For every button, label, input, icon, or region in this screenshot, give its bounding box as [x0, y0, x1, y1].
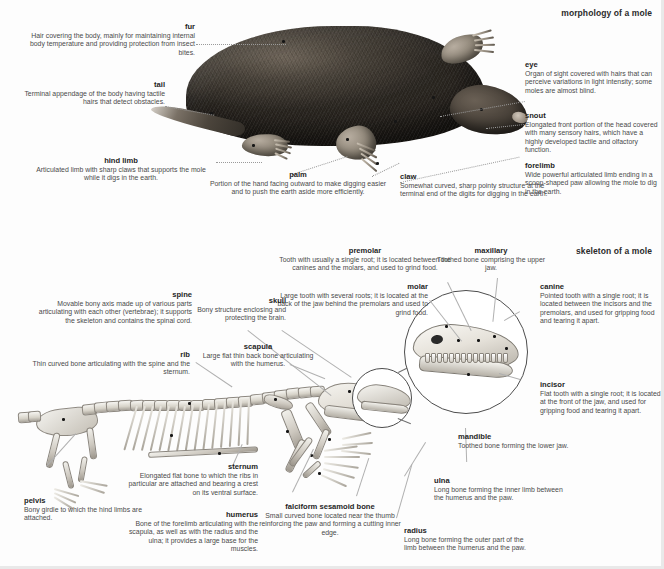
tail-vertebra-shape — [28, 411, 42, 423]
anchor-dot-snout — [480, 108, 483, 111]
callout-hind-limb: hind limb Articulated limb with sharp cl… — [28, 156, 214, 183]
callout-ulna: ulna Long bone forming the inner limb be… — [434, 476, 570, 503]
callout-eye-desc: Organ of sight covered with hairs that c… — [525, 70, 657, 95]
callout-mandible: mandible Toothed bone forming the lower … — [458, 432, 570, 450]
anchor-dot-scapula — [274, 398, 277, 401]
front-digit-shape — [324, 462, 359, 469]
anchor-dot-humerus — [286, 430, 289, 433]
callout-tail-term: tail — [10, 80, 165, 90]
callout-falciform-sesamoid-bone-term: falciform sesamoid bone — [256, 502, 404, 512]
callout-sternum: sternum Elongated flat bone to which the… — [128, 462, 258, 497]
anchor-dot-claw — [376, 162, 379, 165]
callout-scapula-term: scapula — [196, 342, 320, 352]
front-digit-shape — [321, 474, 347, 487]
skull-reference-circle — [352, 368, 412, 428]
callout-humerus-term: humerus — [124, 510, 258, 520]
callout-canine-term: canine — [540, 282, 662, 292]
hind-femur-shape — [45, 432, 61, 469]
callout-falciform-sesamoid-bone-desc: Small curved bone located near the thumb… — [256, 512, 404, 537]
anchor-dot-tail — [210, 112, 213, 115]
callout-sternum-term: sternum — [128, 462, 258, 472]
callout-snout: snout Elongated front portion of the hea… — [525, 111, 659, 155]
callout-fur-desc: Hair covering the body, mainly for maint… — [20, 32, 195, 57]
anchor-dot-skull — [348, 390, 351, 393]
callout-radius-term: radius — [404, 526, 538, 536]
callout-tail: tail Terminal appendage of the body havi… — [10, 80, 165, 107]
callout-mandible-desc: Toothed bone forming the lower jaw. — [458, 442, 570, 450]
callout-radius: radius Long bone forming the outer part … — [404, 526, 538, 553]
front-digit-shape — [324, 456, 360, 458]
callout-molar: molar Large tooth with several roots; it… — [268, 282, 428, 317]
callout-spine-desc: Movable bony axis made up of various par… — [30, 300, 192, 325]
anchor-dot-incisor — [505, 347, 508, 350]
anchor-dot-sternum — [218, 452, 221, 455]
callout-forelimb: forelimb Wide powerful articulated limb … — [525, 161, 659, 196]
anchor-dot-molar — [457, 339, 460, 342]
callout-radius-desc: Long bone forming the outer part of the … — [404, 536, 538, 553]
anchor-dot-rib — [170, 434, 173, 437]
callout-incisor-desc: Flat tooth with a single root; it is loc… — [540, 390, 662, 415]
callout-skull-desc: Bony structure enclosing and protecting … — [180, 306, 286, 323]
callout-maxillary-term: maxillary — [434, 246, 548, 256]
front-digit-far-shape — [342, 432, 372, 440]
callout-premolar-term: premolar — [278, 246, 452, 256]
callout-fur: fur Hair covering the body, mainly for m… — [20, 22, 195, 57]
anchor-dot-mandible — [467, 373, 470, 376]
callout-scapula: scapula Large flat thin back bone articu… — [196, 342, 320, 369]
callout-hind-limb-term: hind limb — [28, 156, 214, 166]
hind-femur2-shape — [86, 427, 97, 460]
callout-scapula-desc: Large flat thin back bone articulating w… — [196, 352, 320, 369]
callout-spine-term: spine — [30, 290, 192, 300]
anchor-dot-pelvis — [62, 418, 65, 421]
callout-canine-desc: Pointed tooth with a single root; it is … — [540, 292, 662, 326]
callout-ulna-desc: Long bone forming the inner limb between… — [434, 486, 570, 503]
callout-premolar: premolar Tooth with usually a single roo… — [278, 246, 452, 273]
anchor-dot-ulna — [328, 438, 331, 441]
anchor-dot-canine — [493, 335, 496, 338]
callout-canine: canine Pointed tooth with a single root;… — [540, 282, 662, 326]
anchor-dot-palm — [346, 138, 349, 141]
callout-skull: skull Bony structure enclosing and prote… — [180, 296, 286, 323]
callout-ulna-term: ulna — [434, 476, 570, 486]
anchor-dot-falciform — [318, 472, 321, 475]
front-digit-far-shape — [341, 450, 371, 455]
callout-mandible-term: mandible — [458, 432, 570, 442]
callout-premolar-desc: Tooth with usually a single root; it is … — [278, 256, 452, 273]
magnified-teeth — [425, 353, 511, 365]
falciform-sesamoid-bone-shape — [302, 460, 322, 479]
rib-shape — [176, 406, 186, 452]
rib-shape — [185, 405, 194, 451]
anchor-dot-eye — [432, 96, 435, 99]
callout-humerus-desc: Bone of the forelimb articulating with t… — [124, 520, 258, 554]
callout-skull-term: skull — [180, 296, 286, 306]
callout-rib-term: rib — [22, 350, 190, 360]
callout-sternum-desc: Elongated flat bone to which the ribs in… — [128, 472, 258, 497]
callout-falciform-sesamoid-bone: falciform sesamoid bone Small curved bon… — [256, 502, 404, 537]
callout-palm: palm Portion of the hand facing outward … — [206, 170, 390, 197]
callout-molar-term: molar — [268, 282, 428, 292]
callout-incisor: incisor Flat tooth with a single root; i… — [540, 380, 662, 415]
hind-tibia-shape — [62, 461, 75, 490]
callout-molar-desc: Large tooth with several roots; it is lo… — [268, 292, 428, 317]
callout-maxillary-desc: Toothed bone comprising the upper jaw. — [434, 256, 548, 273]
anchor-dot-fur — [282, 40, 285, 43]
section-title-morphology: morphology of a mole — [561, 8, 652, 18]
anchor-dot-maxillary — [445, 325, 448, 328]
callout-incisor-term: incisor — [540, 380, 662, 390]
rib-shape — [246, 399, 249, 445]
rib-shape — [202, 404, 209, 450]
callout-eye-term: eye — [525, 60, 657, 70]
callout-hind-limb-desc: Articulated limb with sharp claws that s… — [28, 166, 214, 183]
callout-snout-desc: Elongated front portion of the head cove… — [525, 121, 659, 155]
callout-palm-term: palm — [206, 170, 390, 180]
callout-pelvis-term: pelvis — [24, 496, 142, 506]
callout-rib-desc: Thin curved bone articulating with the s… — [22, 360, 190, 377]
anchor-dot-hind-limb — [252, 144, 255, 147]
rib-shape — [194, 405, 202, 451]
callout-spine: spine Movable bony axis made up of vario… — [30, 290, 192, 325]
callout-maxillary: maxillary Toothed bone comprising the up… — [434, 246, 548, 273]
anchor-dot-premolar — [477, 339, 480, 342]
callout-forelimb-desc: Wide powerful articulated limb ending in… — [525, 171, 659, 196]
callout-palm-desc: Portion of the hand facing outward to ma… — [206, 180, 390, 197]
callout-tail-desc: Terminal appendage of the body having ta… — [10, 90, 165, 107]
